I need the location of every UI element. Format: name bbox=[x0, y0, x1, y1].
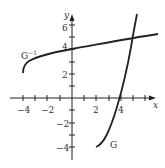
x-tick-label: −4 bbox=[17, 105, 31, 115]
g-curve bbox=[96, 14, 137, 147]
y-axis-label: y bbox=[63, 10, 70, 20]
y-tick-label: 2 bbox=[62, 70, 68, 80]
function-graph: −4 −2 2 4 6 4 2 −2 −4 y x G G−1 bbox=[0, 0, 165, 168]
x-tick-label: 2 bbox=[93, 105, 99, 115]
g-curve-label: G bbox=[110, 140, 117, 150]
y-tick-label: −2 bbox=[56, 119, 69, 129]
y-axis-arrow-icon bbox=[70, 14, 75, 21]
x-axis-label: x bbox=[153, 100, 158, 110]
x-tick-label: 4 bbox=[118, 105, 124, 115]
y-tick-label: −4 bbox=[56, 143, 70, 153]
g-inverse-curve bbox=[23, 34, 158, 73]
x-tick-label: −2 bbox=[41, 105, 54, 115]
y-tick-label: 6 bbox=[62, 23, 68, 33]
